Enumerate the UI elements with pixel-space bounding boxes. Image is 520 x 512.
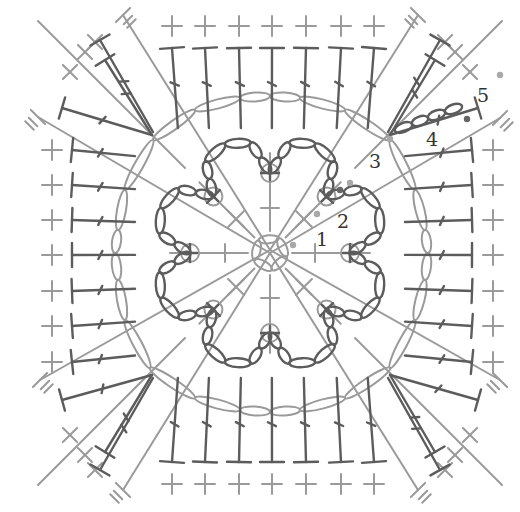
single-crochet-stitch [483,316,503,336]
double-crochet-stitch [59,97,152,135]
start-dot-round-2 [337,187,343,193]
single-crochet-stitch [483,210,503,230]
single-crochet-stitch [441,441,469,469]
chain-stitch [155,208,165,234]
round-label-2: 2 [337,210,349,232]
single-crochet-stitch [42,281,62,301]
chain-stitch [375,208,385,234]
chain-stitch [326,160,339,179]
single-crochet-stitch [331,16,351,36]
chain-stitch [410,114,429,128]
chain-stitch [411,189,430,231]
chain-stitch [343,309,362,322]
double-crochet-stitch [193,378,217,463]
corner-line [123,253,270,490]
corner-line-end [411,483,434,506]
double-crochet-stitch [90,378,153,475]
single-crochet-stitch [71,441,99,469]
corner-line-end [107,483,130,506]
double-crochet-stitch [227,48,251,128]
single-crochet-stitch [162,16,182,36]
start-dot-round-5 [497,72,503,78]
dark-stitches [59,35,481,476]
corner-line-end [33,373,56,396]
start-dot-round-3 [347,180,353,186]
start-dot-round-4 [387,136,393,142]
corner-diagonal [38,338,185,485]
chain-stitch [194,394,241,415]
single-crochet-stitch [229,16,249,36]
chain-stitch [289,358,315,368]
single-crochet-stitch [483,245,503,265]
corner-diagonal [38,21,185,168]
single-crochet-stitch [483,175,503,195]
single-crochet-stitch [296,474,316,494]
single-crochet-stitch [456,421,484,449]
single-crochet-stitch [483,352,503,372]
single-crochet-stitch [42,175,62,195]
chain-stitch [114,279,130,321]
single-crochet-stitch [262,474,282,494]
chain-stitch [111,229,123,253]
single-crochet-stitch [42,245,62,265]
chain-stitch [225,358,251,368]
chain-stitch [177,309,196,322]
corner-line [40,250,270,380]
chain-stitch [427,108,447,122]
corner-line-end [402,8,425,31]
double-crochet-stitch [405,350,473,374]
single-crochet-stitch [261,289,279,307]
single-crochet-stitch [261,199,279,217]
single-crochet-x-stitch [296,211,312,227]
start-dot-round-2 [314,211,320,217]
single-crochet-stitch [216,244,234,262]
chain-stitch [114,189,130,231]
double-crochet-stitch [388,378,450,475]
chain-stitch [343,184,362,197]
single-crochet-x-stitch [296,279,312,295]
chain-stitch [177,184,196,197]
single-crochet-stitch [483,140,503,160]
double-crochet-stitch [71,350,135,374]
chain-stitch [386,138,419,192]
crochet-chart: 12345 [0,0,520,512]
chain-stitch [240,406,271,417]
single-crochet-stitch [42,316,62,336]
single-crochet-x-stitch [228,211,244,227]
double-crochet-stitch [294,48,318,128]
single-crochet-stitch [195,474,215,494]
round-label-1: 1 [316,228,328,250]
chain-stitch [270,92,301,103]
chain-stitch [421,253,433,281]
chain-stitch [289,138,315,148]
chain-stitch [150,106,197,143]
chain-stitch [155,272,165,298]
double-crochet-stitch [96,54,152,135]
single-crochet-stitch [483,281,503,301]
chain-stitch [375,272,385,298]
double-crochet-stitch [193,47,217,128]
single-crochet-stitch [195,16,215,36]
chain-stitch [201,160,214,179]
single-crochet-stitch [229,474,249,494]
double-crochet-stitch [362,47,386,128]
single-crochet-stitch [331,474,351,494]
corner-line-end [493,111,516,134]
chain-stitch [111,253,123,281]
double-crochet-stitch [390,54,444,135]
single-crochet-x-stitch [228,279,244,295]
chain-stitch [326,326,339,345]
double-crochet-stitch [72,243,135,267]
corner-line-end [116,8,139,31]
double-crochet-stitch [405,138,473,162]
single-crochet-stitch [42,140,62,160]
corner-line [270,253,418,490]
chain-stitch [240,92,271,103]
round-label-3: 3 [369,150,381,172]
corner-line-end [484,373,507,396]
single-crochet-stitch [364,16,384,36]
single-crochet-stitch [296,16,316,36]
chain-stitch [270,406,301,417]
corner-line-end [22,110,45,133]
chain-stitch [421,229,433,253]
